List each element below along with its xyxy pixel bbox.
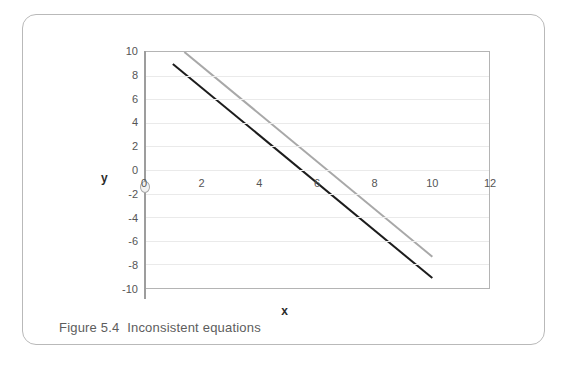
plot-frame bbox=[144, 51, 490, 289]
chart-series-layer bbox=[144, 52, 490, 290]
y-axis-line bbox=[144, 51, 146, 299]
gridline bbox=[144, 217, 489, 218]
figure-card: 10 8 6 4 2 0 -2 -4 -6 -8 -10 bbox=[22, 14, 545, 345]
y-tick-label: 6 bbox=[108, 93, 138, 104]
x-tick-label: 10 bbox=[426, 178, 438, 189]
x-tick-label: 4 bbox=[256, 178, 262, 189]
figure-caption: Figure 5.4 Inconsistent equations bbox=[59, 321, 261, 334]
y-axis-tick-labels: 10 8 6 4 2 0 -2 -4 -6 -8 -10 bbox=[106, 51, 138, 289]
y-tick-label: 4 bbox=[108, 117, 138, 128]
y-axis-title: y bbox=[101, 172, 108, 184]
chart-line-black bbox=[173, 64, 433, 278]
x-tick-label: 6 bbox=[314, 178, 320, 189]
x-tick-label: 2 bbox=[199, 178, 205, 189]
gridline bbox=[144, 146, 489, 147]
plot-area bbox=[144, 51, 490, 289]
y-tick-label: 0 bbox=[108, 165, 138, 176]
y-tick-label: 8 bbox=[108, 69, 138, 80]
y-tick-label: -10 bbox=[108, 284, 138, 295]
x-tick-label: 8 bbox=[372, 178, 378, 189]
x-axis-title: x bbox=[23, 305, 546, 317]
y-tick-label: -2 bbox=[108, 188, 138, 199]
gridline bbox=[144, 123, 489, 124]
y-tick-label: -6 bbox=[108, 236, 138, 247]
gridline bbox=[144, 99, 489, 100]
y-tick-label: -4 bbox=[108, 212, 138, 223]
gridline bbox=[144, 76, 489, 77]
gridline bbox=[144, 241, 489, 242]
chart-line-gray bbox=[184, 52, 432, 257]
gridline bbox=[144, 264, 489, 265]
y-tick-label: -8 bbox=[108, 260, 138, 271]
y-tick-label: 10 bbox=[108, 46, 138, 57]
y-tick-label: 2 bbox=[108, 141, 138, 152]
gridline bbox=[144, 170, 489, 171]
x-tick-label: 0 bbox=[141, 178, 147, 189]
x-axis-tick-labels: 0 2 4 6 8 10 12 bbox=[144, 178, 490, 194]
x-tick-label: 12 bbox=[484, 178, 496, 189]
